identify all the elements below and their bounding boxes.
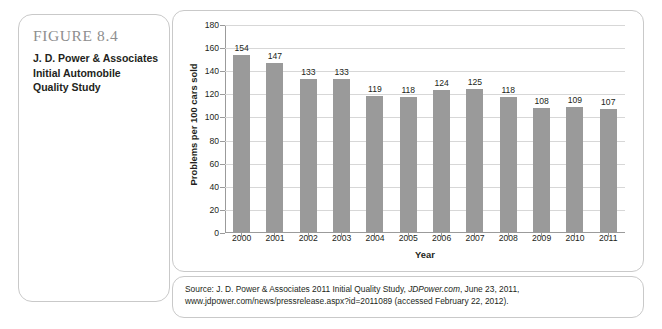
caption-line-1: J. D. Power & Associates [33, 51, 165, 66]
bar-slot: 109 [558, 25, 591, 233]
figure-container: FIGURE 8.4 J. D. Power & Associates Init… [0, 0, 662, 329]
x-tick-label: 2005 [392, 233, 425, 247]
bar [600, 109, 617, 233]
bar [233, 55, 250, 233]
x-tick-label: 2011 [592, 233, 625, 247]
x-tick-label: 2010 [558, 233, 591, 247]
bar [466, 89, 483, 233]
x-tick-label: 2007 [458, 233, 491, 247]
plot-area: Problems per 100 cars sold 1801601401201… [173, 11, 643, 271]
bar-value-label: 147 [268, 51, 282, 61]
source-panel: Source: J. D. Power & Associates 2011 In… [172, 276, 644, 318]
figure-number: FIGURE 8.4 [33, 27, 118, 45]
x-tick-label: 2001 [258, 233, 291, 247]
chart-panel: Problems per 100 cars sold 1801601401201… [172, 10, 644, 272]
bar-slot: 133 [325, 25, 358, 233]
figure-caption-text: J. D. Power & Associates Initial Automob… [33, 51, 165, 95]
bar [333, 79, 350, 233]
bar-value-label: 133 [334, 67, 348, 77]
x-tick-label: 2003 [325, 233, 358, 247]
bar [300, 79, 317, 233]
source-italic-title: JDPower.com [408, 284, 460, 294]
bar-slot: 125 [458, 25, 491, 233]
source-prefix: Source: J. D. Power & Associates 2011 In… [185, 284, 408, 294]
bar [533, 108, 550, 233]
bar-slot: 118 [492, 25, 525, 233]
bar-value-label: 108 [534, 96, 548, 106]
x-axis-labels: 2000200120022003200420052006200720082009… [225, 233, 625, 247]
y-tick-label: 60 [193, 159, 219, 169]
bar [433, 90, 450, 233]
bar [566, 107, 583, 233]
bar [266, 63, 283, 233]
bar [366, 96, 383, 234]
figure-caption-panel: FIGURE 8.4 J. D. Power & Associates Init… [18, 14, 170, 302]
x-tick-label: 2002 [292, 233, 325, 247]
bar-series: 154147133133119118124125118108109107 [225, 25, 625, 233]
x-tick-label: 2006 [425, 233, 458, 247]
bar-slot: 154 [225, 25, 258, 233]
y-tick-label: 80 [193, 136, 219, 146]
x-tick-label: 2004 [358, 233, 391, 247]
bar-value-label: 124 [434, 78, 448, 88]
bar-value-label: 119 [368, 84, 382, 94]
bar-slot: 147 [258, 25, 291, 233]
bar-value-label: 107 [601, 97, 615, 107]
y-tick-label: 140 [193, 66, 219, 76]
y-tick-label: 0 [193, 228, 219, 238]
bar-value-label: 118 [501, 85, 515, 95]
bar-value-label: 118 [401, 85, 415, 95]
bar [400, 97, 417, 233]
bar-slot: 108 [525, 25, 558, 233]
bar-value-label: 125 [468, 77, 482, 87]
x-tick-label: 2008 [492, 233, 525, 247]
bar-slot: 124 [425, 25, 458, 233]
bar-value-label: 133 [301, 67, 315, 77]
source-note: Source: J. D. Power & Associates 2011 In… [185, 284, 637, 307]
y-tick-label: 40 [193, 182, 219, 192]
y-tick-label: 100 [193, 112, 219, 122]
bar-plot: 180160140120100806040200 154147133133119… [225, 25, 625, 233]
bar [500, 97, 517, 233]
x-tick-label: 2009 [525, 233, 558, 247]
bar-value-label: 109 [568, 95, 582, 105]
caption-line-3: Quality Study [33, 80, 165, 95]
source-line-2: .aspx?id=2011089 (accessed February 22, … [324, 296, 508, 306]
caption-line-2: Initial Automobile [33, 66, 165, 81]
x-axis-title: Year [225, 249, 625, 260]
bar-slot: 107 [592, 25, 625, 233]
bar-slot: 133 [292, 25, 325, 233]
bar-slot: 118 [392, 25, 425, 233]
y-tick-label: 120 [193, 89, 219, 99]
y-tick-label: 20 [193, 205, 219, 215]
y-tick-label: 180 [193, 20, 219, 30]
bar-slot: 119 [358, 25, 391, 233]
y-tick-label: 160 [193, 43, 219, 53]
x-tick-label: 2000 [225, 233, 258, 247]
bar-value-label: 154 [234, 43, 248, 53]
